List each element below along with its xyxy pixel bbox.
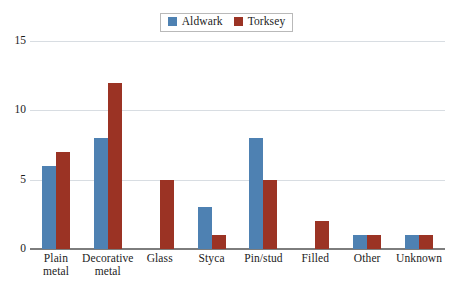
bar-torksey[interactable]: [263, 180, 277, 249]
y-tick-label: 10: [0, 105, 26, 117]
bar-torksey[interactable]: [212, 235, 226, 249]
x-axis-labels: Plain metal Decorative metal Glass Styca…: [30, 252, 445, 278]
bars: [393, 41, 445, 249]
x-tick-label-pin-stud: Pin/stud: [238, 252, 290, 278]
bar-torksey[interactable]: [160, 180, 174, 249]
bar-groups: [30, 41, 445, 249]
legend-label-torksey: Torksey: [248, 16, 286, 28]
x-tick-label-plain-metal: Plain metal: [30, 252, 82, 278]
y-tick-label: 0: [0, 243, 26, 255]
bar-group-unknown: [393, 41, 445, 249]
bar-torksey[interactable]: [108, 83, 122, 249]
bar-aldwark[interactable]: [405, 235, 419, 249]
x-tick-label-glass: Glass: [134, 252, 186, 278]
bars: [289, 41, 341, 249]
bar-aldwark[interactable]: [353, 235, 367, 249]
bars: [186, 41, 238, 249]
chart-legend: Aldwark Torksey: [0, 13, 453, 32]
bars: [341, 41, 393, 249]
plot-area: [30, 41, 445, 249]
bar-group-pin-stud: [238, 41, 290, 249]
bars: [82, 41, 134, 249]
bar-group-styca: [186, 41, 238, 249]
bar-torksey[interactable]: [419, 235, 433, 249]
x-tick-label-filled: Filled: [289, 252, 341, 278]
x-tick-label-other: Other: [341, 252, 393, 278]
legend-swatch-torksey: [234, 17, 243, 26]
legend-label-aldwark: Aldwark: [182, 16, 223, 28]
bar-aldwark[interactable]: [249, 138, 263, 249]
y-tick-label: 5: [0, 174, 26, 186]
legend-entry-aldwark: Aldwark: [168, 16, 223, 28]
y-axis-labels: 15 10 5 0: [0, 41, 26, 249]
x-tick-label-decorative-metal: Decorative metal: [82, 252, 134, 278]
bar-torksey[interactable]: [367, 235, 381, 249]
bar-chart: Aldwark Torksey 15 10 5 0: [0, 0, 453, 289]
bars: [134, 41, 186, 249]
bar-torksey[interactable]: [56, 152, 70, 249]
bar-aldwark[interactable]: [42, 166, 56, 249]
bar-aldwark[interactable]: [94, 138, 108, 249]
legend-box: Aldwark Torksey: [160, 13, 294, 32]
y-tick-label: 15: [0, 35, 26, 47]
bar-group-glass: [134, 41, 186, 249]
bar-torksey[interactable]: [315, 221, 329, 249]
legend-entry-torksey: Torksey: [234, 16, 286, 28]
bars: [30, 41, 82, 249]
bar-group-decorative-metal: [82, 41, 134, 249]
bar-group-other: [341, 41, 393, 249]
x-tick-label-styca: Styca: [186, 252, 238, 278]
bar-group-plain-metal: [30, 41, 82, 249]
bars: [238, 41, 290, 249]
bar-group-filled: [289, 41, 341, 249]
legend-swatch-aldwark: [168, 17, 177, 26]
x-tick-label-unknown: Unknown: [393, 252, 445, 278]
bar-aldwark[interactable]: [198, 207, 212, 249]
